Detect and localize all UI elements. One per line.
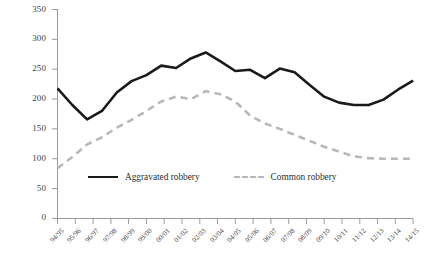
y-axis-ticks	[52, 10, 58, 219]
chart-legend: Aggravated robbery Common robbery	[88, 172, 336, 182]
y-axis-tick-label: 0	[20, 212, 46, 222]
y-axis-tick-label: 350	[20, 4, 46, 14]
legend-swatch-dashed-line-icon	[234, 176, 264, 178]
y-axis-tick-label: 50	[20, 183, 46, 193]
legend-item-common-robbery: Common robbery	[234, 172, 337, 182]
legend-label-aggravated-robbery: Aggravated robbery	[125, 172, 200, 182]
legend-label-common-robbery: Common robbery	[271, 172, 337, 182]
chart-container: 350300250200150100500 94/9595/9696/9797/…	[0, 0, 425, 261]
series-line-aggravated-robbery	[58, 52, 414, 119]
y-axis-tick-label: 250	[20, 63, 46, 73]
y-axis-tick-label: 200	[20, 93, 46, 103]
legend-swatch-solid-line-icon	[88, 176, 118, 179]
y-axis-tick-label: 100	[20, 153, 46, 163]
line-chart-plot	[0, 0, 425, 261]
y-axis-tick-label: 300	[20, 33, 46, 43]
legend-item-aggravated-robbery: Aggravated robbery	[88, 172, 200, 182]
y-axis-tick-label: 150	[20, 123, 46, 133]
series-line-common-robbery	[58, 91, 414, 168]
x-axis-ticks	[58, 219, 414, 225]
